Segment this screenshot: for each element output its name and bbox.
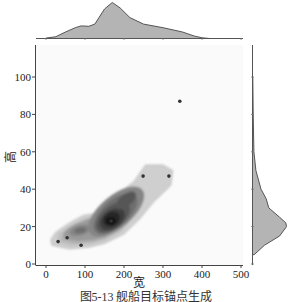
y-tick-label: 80: [20, 108, 32, 120]
figure-caption: 图5-13 舰船目标锚点生成: [0, 290, 292, 302]
scatter-point: [141, 174, 145, 178]
x-tick-label: 300: [155, 268, 172, 280]
scatter-point: [109, 219, 113, 223]
y-tick-label: 0: [26, 258, 32, 270]
y-tick-label: 20: [20, 221, 32, 233]
y-tick-label: 40: [20, 183, 32, 195]
y-axis-label: 高: [3, 151, 18, 163]
x-tick-label: 100: [77, 268, 94, 280]
joint-plot-figure: 0100200300400500 020406080100 宽 高: [0, 0, 292, 302]
scatter-point: [65, 236, 69, 240]
x-axis-ticks: 0100200300400500: [43, 265, 250, 280]
scatter-point: [167, 174, 171, 178]
x-axis-label: 宽: [133, 275, 145, 290]
x-tick-label: 200: [116, 268, 133, 280]
y-tick-label: 60: [20, 146, 32, 158]
scatter-point: [79, 244, 83, 248]
x-tick-label: 400: [194, 268, 211, 280]
y-tick-label: 100: [15, 71, 32, 83]
x-tick-label: 500: [233, 268, 250, 280]
y-axis-ticks: 020406080100: [15, 71, 36, 270]
scatter-point: [56, 240, 60, 244]
scatter-point: [178, 100, 182, 104]
main-plot: 0100200300400500 020406080100: [15, 45, 250, 280]
top-marginal-kde: [36, 3, 243, 41]
x-tick-label: 0: [43, 268, 49, 280]
right-marginal-kde: [251, 45, 287, 265]
